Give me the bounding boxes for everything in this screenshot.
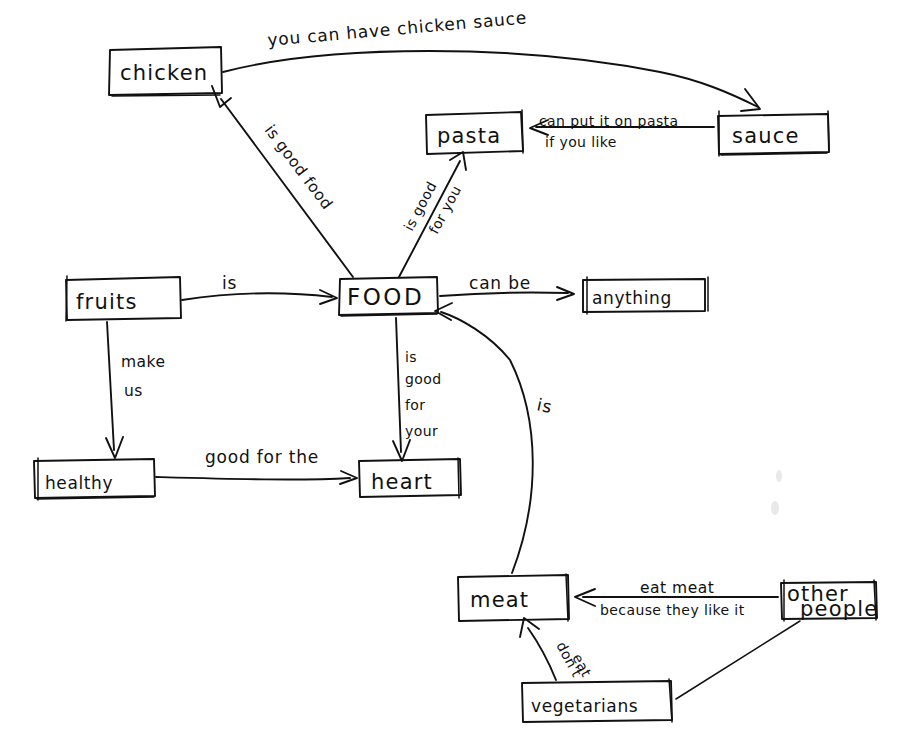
node-other-people[interactable]: other people bbox=[781, 580, 878, 621]
edge-food-chicken: is good food bbox=[212, 86, 353, 277]
node-healthy[interactable]: healthy bbox=[34, 458, 155, 500]
edge-healthy-heart-label: good for the bbox=[205, 447, 319, 467]
edge-meat-food: is bbox=[435, 303, 554, 573]
node-fruits-label: fruits bbox=[76, 290, 138, 314]
connector-otherpeople-vegetarians bbox=[676, 621, 800, 699]
edge-chicken-sauce-label: you can have chicken sauce bbox=[267, 7, 528, 50]
edge-otherpeople-meat-label-line1: eat meat bbox=[640, 579, 714, 597]
node-anything-label: anything bbox=[592, 288, 672, 308]
edge-otherpeople-meat: eat meat because they like it bbox=[575, 579, 778, 618]
node-fruits[interactable]: fruits bbox=[66, 276, 181, 321]
edge-vegetarians-meat: don't eat bbox=[520, 618, 595, 680]
node-sauce[interactable]: sauce bbox=[718, 111, 829, 156]
edge-fruits-healthy: make us bbox=[106, 322, 166, 458]
edge-food-heart-label-line2: good bbox=[405, 371, 442, 387]
node-chicken-label: chicken bbox=[120, 61, 208, 85]
node-heart-label: heart bbox=[371, 470, 433, 494]
edge-food-anything-label: can be bbox=[469, 273, 531, 293]
node-pasta[interactable]: pasta bbox=[426, 110, 523, 154]
node-vegetarians-label: vegetarians bbox=[531, 696, 638, 716]
edge-food-anything: can be bbox=[440, 273, 574, 300]
edge-fruits-healthy-label-line2: us bbox=[124, 382, 143, 400]
edge-chicken-sauce: you can have chicken sauce bbox=[223, 7, 760, 111]
node-heart[interactable]: heart bbox=[359, 458, 461, 498]
edge-food-heart: is good for your bbox=[393, 318, 442, 461]
edge-sauce-pasta-label-line1: can put it on pasta bbox=[539, 113, 678, 129]
edge-food-heart-label-line4: your bbox=[405, 423, 438, 439]
node-meat-label: meat bbox=[470, 588, 529, 612]
node-meat[interactable]: meat bbox=[458, 574, 569, 621]
edge-food-heart-label-line3: for bbox=[405, 397, 425, 413]
edge-fruits-food: is bbox=[182, 273, 337, 304]
edge-fruits-healthy-label-line1: make bbox=[121, 353, 166, 371]
node-pasta-label: pasta bbox=[437, 124, 501, 148]
edge-otherpeople-meat-label-line2: because they like it bbox=[600, 602, 745, 618]
paper-smudge bbox=[771, 470, 782, 515]
edge-food-pasta: is good for you bbox=[399, 152, 466, 277]
edge-sauce-pasta: can put it on pasta if you like bbox=[530, 113, 714, 150]
edge-healthy-heart: good for the bbox=[156, 447, 357, 484]
edge-food-heart-label-line1: is bbox=[405, 349, 417, 365]
node-chicken[interactable]: chicken bbox=[109, 47, 222, 96]
node-sauce-label: sauce bbox=[732, 124, 800, 148]
node-healthy-label: healthy bbox=[45, 473, 113, 493]
edge-meat-food-label: is bbox=[535, 394, 554, 417]
node-anything[interactable]: anything bbox=[583, 277, 708, 314]
node-food[interactable]: FOOD bbox=[339, 277, 438, 316]
edge-sauce-pasta-label-line2: if you like bbox=[545, 134, 617, 150]
concept-map-canvas: chicken sauce pasta FOOD fruits anything bbox=[0, 0, 911, 756]
node-other-people-label-line2: people bbox=[800, 597, 878, 621]
edge-fruits-food-label: is bbox=[222, 273, 237, 293]
node-vegetarians[interactable]: vegetarians bbox=[522, 679, 672, 722]
node-food-label: FOOD bbox=[347, 284, 424, 310]
